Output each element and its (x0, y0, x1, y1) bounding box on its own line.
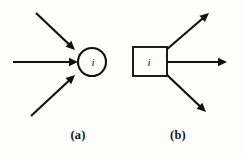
incoming-arrow-middle (13, 58, 78, 66)
outgoing-arrow-lower-shaft (166, 74, 200, 107)
panel-a: i (a) (13, 13, 106, 142)
circle-node-label: i (91, 56, 94, 68)
diagram-canvas: i (a) i (b) (0, 0, 243, 154)
outgoing-arrow-upper (166, 13, 209, 50)
outgoing-arrow-lower (166, 74, 206, 112)
incoming-arrow-lower-shaft (31, 80, 69, 116)
incoming-arrow-upper-shaft (36, 13, 69, 45)
panel-a-caption: (a) (70, 128, 85, 142)
panel-b: i (b) (133, 13, 227, 142)
incoming-arrow-upper (36, 13, 75, 50)
outgoing-arrow-middle-head (218, 58, 227, 66)
incoming-arrow-middle-head (69, 58, 78, 66)
incoming-arrow-lower (31, 75, 75, 116)
square-node-label: i (147, 56, 150, 68)
outgoing-arrow-upper-shaft (166, 18, 203, 50)
panel-b-caption: (b) (170, 128, 186, 142)
figure-root: i (a) i (b) (0, 0, 243, 154)
outgoing-arrow-middle (166, 58, 227, 66)
